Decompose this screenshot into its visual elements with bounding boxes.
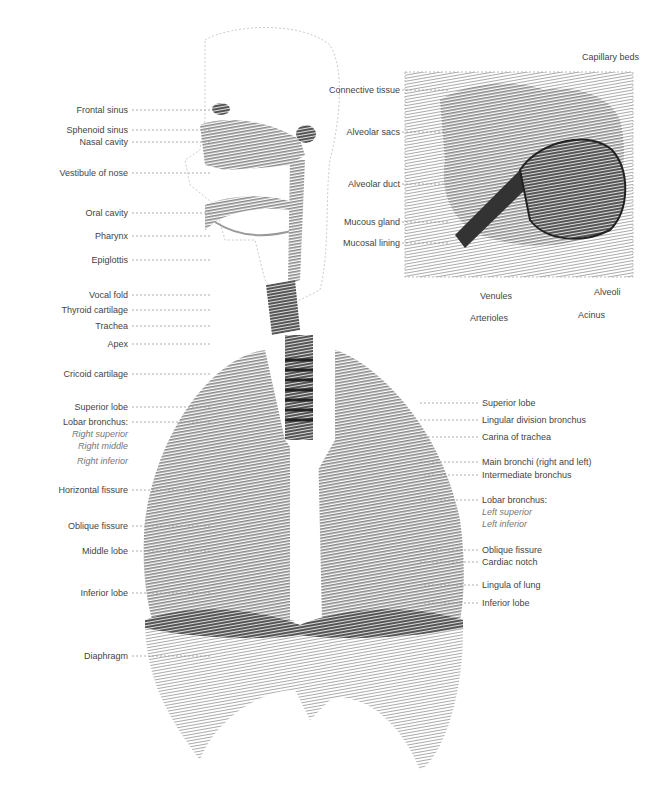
capillary-beds-label: Capillary beds [582, 52, 639, 62]
left-label: Vocal fold [89, 290, 128, 300]
right-label: Oblique fissure [482, 545, 542, 555]
left-label: Thyroid cartilage [61, 305, 128, 315]
left-label: Right inferior [77, 456, 128, 466]
left-label: Cricoid cartilage [63, 369, 128, 379]
right-label: Lingular division bronchus [482, 415, 586, 425]
left-label: Sphenoid sinus [66, 125, 128, 135]
left-label: Diaphragm [84, 651, 128, 661]
respiratory-diagram: Frontal sinusSphenoid sinusNasal cavityV… [0, 0, 668, 807]
right-label: Lingula of lung [482, 580, 541, 590]
left-label: Oblique fissure [68, 521, 128, 531]
left-label: Lobar bronchus: [63, 417, 128, 427]
left-label: Right middle [78, 441, 128, 451]
left-label: Middle lobe [82, 546, 128, 556]
inset-left-label: Connective tissue [329, 85, 400, 95]
inset-left-label: Alveolar duct [348, 179, 400, 189]
left-label: Nasal cavity [79, 137, 128, 147]
inset-bottom-label: Arterioles [470, 313, 508, 323]
head-outline [185, 28, 339, 336]
left-label: Trachea [95, 321, 128, 331]
right-label: Intermediate bronchus [482, 470, 572, 480]
right-label: Carina of trachea [482, 432, 551, 442]
left-label: Apex [107, 339, 128, 349]
right-label: Lobar bronchus: [482, 495, 547, 505]
lungs [144, 335, 464, 770]
inset-left-label: Mucous gland [344, 217, 400, 227]
left-label: Right superior [72, 429, 128, 439]
right-label: Left superior [482, 507, 532, 517]
right-label: Inferior lobe [482, 598, 530, 608]
left-label: Epiglottis [91, 255, 128, 265]
inset-bottom-label: Alveoli [594, 287, 621, 297]
left-label: Vestibule of nose [59, 168, 128, 178]
left-label: Superior lobe [74, 402, 128, 412]
right-label: Left inferior [482, 519, 527, 529]
inset-bottom-label: Venules [480, 291, 512, 301]
right-label: Cardiac notch [482, 557, 538, 567]
left-label: Oral cavity [85, 208, 128, 218]
inset-left-label: Alveolar sacs [346, 127, 400, 137]
inset-left-label: Mucosal lining [343, 238, 400, 248]
left-label: Frontal sinus [76, 105, 128, 115]
left-label: Inferior lobe [80, 588, 128, 598]
inset-bottom-label: Acinus [578, 310, 605, 320]
right-label: Main bronchi (right and left) [482, 457, 592, 467]
right-label: Superior lobe [482, 398, 536, 408]
alveoli-inset [405, 72, 633, 277]
left-label: Horizontal fissure [58, 485, 128, 495]
left-label: Pharynx [95, 231, 128, 241]
